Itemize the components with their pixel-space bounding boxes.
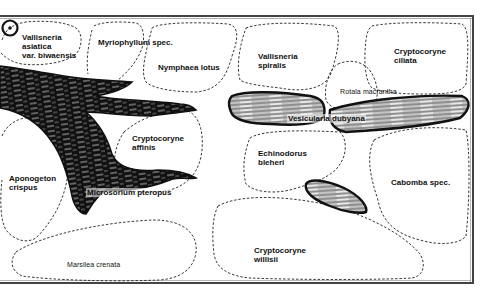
stone-center [306,181,367,213]
planting-diagram: Vallisneria asiatica var. biwaensis Myri… [0,0,499,304]
label-cabomba: Cabomba spec. [391,178,450,187]
label-line: crispus [9,183,56,192]
label-echinodorus: Echinodorus bleheri [258,149,307,167]
label-line: asiatica [22,42,76,51]
label-vesicularia: Vesicularia dubyana [287,114,366,123]
label-myriophyllum: Myriophyllum spec. [98,38,173,47]
label-cryptocoryne-ciliata: Cryptocoryne ciliata [394,47,446,65]
label-nymphaea: Nymphaea lotus [158,63,220,72]
label-vallisneria-asiatica: Vallisneria asiatica var. biwaensis [22,33,76,60]
zone-nymphaea [144,23,237,92]
label-line: Vallisneria [22,33,76,42]
label-cryptocoryne-affinis: Cryptocoryne affinis [132,134,184,152]
label-line: willisii [254,255,306,264]
label-line: Cryptocoryne [132,134,184,143]
label-line: affinis [132,143,184,152]
label-cryptocoryne-willisii: Cryptocoryne willisii [254,246,306,264]
zone-cryptocoryne-willisii [213,198,423,280]
label-rotala: Rotala macrantha [340,87,397,96]
label-line: spiralis [258,61,298,70]
label-aponogeton: Aponogeton crispus [9,174,56,192]
label-line: Echinodorus [258,149,307,158]
label-line: bleheri [258,158,307,167]
zone-marsilea [12,220,196,281]
label-line: Cryptocoryne [254,246,306,255]
zone-myriophyllum [87,22,143,80]
label-line: Vallisneria [258,52,298,61]
label-vallisneria-spiralis: Vallisneria spiralis [258,52,298,70]
label-line: ciliata [394,56,446,65]
label-microsorium: Microsorium pteropus [86,188,172,197]
label-marsilea: Marsilea crenata [67,260,120,269]
label-line: var. biwaensis [22,51,76,60]
label-line: Aponogeton [9,174,56,183]
label-line: Cryptocoryne [394,47,446,56]
